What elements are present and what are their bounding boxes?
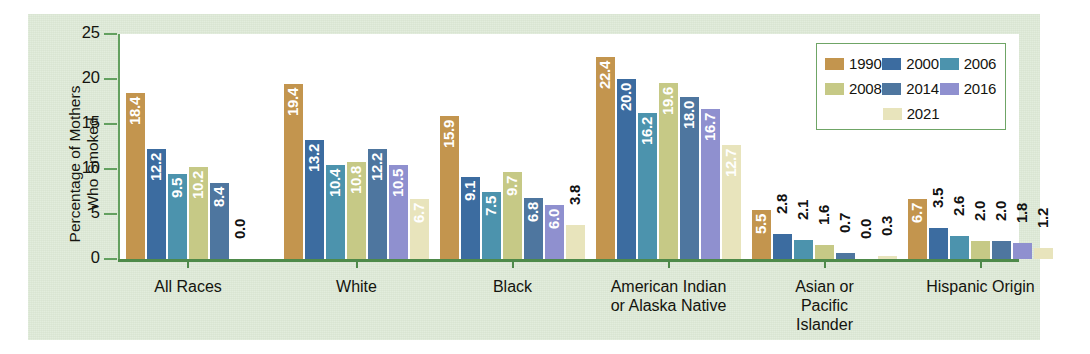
bar-american-indian-or-alaska-native-2008[interactable]: 19.6 — [659, 34, 678, 259]
x-axis-line — [118, 259, 1019, 262]
bar-white-2021[interactable]: 6.7 — [410, 34, 429, 259]
bar-white-2008[interactable]: 10.8 — [347, 34, 366, 259]
category-label-line-1: Hispanic Origin — [891, 277, 1071, 296]
bar-black-2021[interactable]: 3.8 — [566, 34, 585, 259]
bar-value-label: 9.7 — [503, 176, 522, 196]
y-tick-15 — [104, 123, 117, 125]
bar-black-2014[interactable]: 6.8 — [524, 34, 543, 259]
legend-swatch-2014 — [882, 83, 901, 95]
legend-item-2021[interactable]: 2021 — [883, 105, 940, 122]
bar-rect — [1013, 243, 1032, 259]
bar-value-label: 2.0 — [971, 201, 990, 221]
bar-all-races-2008[interactable]: 10.2 — [189, 34, 208, 259]
y-tick-label-25: 25 — [62, 23, 100, 42]
bar-american-indian-or-alaska-native-2006[interactable]: 16.2 — [638, 34, 657, 259]
bar-hispanic-origin-2021[interactable]: 1.2 — [1034, 34, 1053, 259]
y-tick-25 — [104, 33, 117, 35]
bar-all-races-1990[interactable]: 18.4 — [126, 34, 145, 259]
legend-row-2: 2008 2014 2016 — [825, 76, 997, 101]
legend-label-2021: 2021 — [907, 105, 940, 122]
bar-american-indian-or-alaska-native-2000[interactable]: 20.0 — [617, 34, 636, 259]
bar-value-label: 20.0 — [617, 83, 636, 111]
category-label-line-1: Black — [423, 277, 603, 296]
bar-american-indian-or-alaska-native-2014[interactable]: 18.0 — [680, 34, 699, 259]
bar-rect — [929, 228, 948, 260]
category-label-line-1: White — [267, 277, 447, 296]
bar-value-label: 9.1 — [461, 181, 480, 201]
legend-item-2016[interactable]: 2016 — [940, 80, 997, 97]
legend-label-2014: 2014 — [906, 80, 939, 97]
bar-value-label: 12.2 — [368, 153, 387, 181]
bar-all-races-2006[interactable]: 9.5 — [168, 34, 187, 259]
bar-all-races-2014[interactable]: 8.4 — [210, 34, 229, 259]
bar-rect — [794, 240, 813, 259]
x-tick-asian-or-pacific-islander — [824, 259, 826, 268]
bar-black-1990[interactable]: 15.9 — [440, 34, 459, 259]
bar-value-label: 2.8 — [773, 194, 792, 214]
bar-value-label: 1.2 — [1034, 208, 1053, 228]
bar-white-2014[interactable]: 12.2 — [368, 34, 387, 259]
bar-white-2006[interactable]: 10.4 — [326, 34, 345, 259]
bar-value-label: 12.2 — [147, 153, 166, 181]
bar-value-label: 3.5 — [929, 188, 948, 208]
bar-rect — [566, 225, 585, 259]
category-label-line-1: American Indian — [579, 277, 759, 296]
bar-black-2000[interactable]: 9.1 — [461, 34, 480, 259]
bar-rect — [950, 236, 969, 259]
y-tick-label-15: 15 — [62, 113, 100, 132]
legend-swatch-1990 — [825, 58, 844, 70]
bar-american-indian-or-alaska-native-2021[interactable]: 12.7 — [722, 34, 741, 259]
bar-value-label: 10.2 — [189, 171, 208, 199]
bar-asian-or-pacific-islander-2000[interactable]: 2.8 — [773, 34, 792, 259]
bar-american-indian-or-alaska-native-2016[interactable]: 16.7 — [701, 34, 720, 259]
bar-value-label: 16.7 — [701, 113, 720, 141]
bar-rect — [1034, 248, 1053, 259]
bar-all-races-2000[interactable]: 12.2 — [147, 34, 166, 259]
bar-value-label: 8.4 — [210, 187, 229, 207]
legend-swatch-2016 — [940, 83, 959, 95]
bar-value-label: 12.7 — [722, 149, 741, 177]
bar-asian-or-pacific-islander-1990[interactable]: 5.5 — [752, 34, 771, 259]
y-tick-0 — [104, 258, 117, 260]
bar-value-label: 6.7 — [908, 203, 927, 223]
category-label-black: Black — [423, 277, 603, 296]
x-tick-american-indian-or-alaska-native — [668, 259, 670, 268]
legend-item-1990[interactable]: 1990 — [825, 55, 882, 72]
bar-black-2016[interactable]: 6.0 — [545, 34, 564, 259]
bar-black-2006[interactable]: 7.5 — [482, 34, 501, 259]
bar-rect — [815, 245, 834, 259]
bar-value-label: 9.5 — [168, 178, 187, 198]
bar-white-2000[interactable]: 13.2 — [305, 34, 324, 259]
legend-item-2014[interactable]: 2014 — [882, 80, 939, 97]
x-tick-all-races — [187, 259, 189, 268]
category-label-line-2: Pacific — [735, 296, 915, 315]
bar-black-2008[interactable]: 9.7 — [503, 34, 522, 259]
bar-white-2016[interactable]: 10.5 — [389, 34, 408, 259]
legend-swatch-2021 — [883, 108, 902, 120]
bar-rect — [878, 256, 897, 259]
legend-item-2008[interactable]: 2008 — [825, 80, 882, 97]
bar-value-label: 0.0 — [231, 219, 250, 239]
bar-hispanic-origin-2016[interactable]: 1.8 — [1013, 34, 1032, 259]
y-tick-label-20: 20 — [62, 68, 100, 87]
y-tick-20 — [104, 78, 117, 80]
x-tick-hispanic-origin — [980, 259, 982, 268]
bar-value-label: 1.6 — [815, 205, 834, 225]
bar-value-label: 0.3 — [878, 216, 897, 236]
y-tick-label-5: 5 — [62, 203, 100, 222]
legend-label-2008: 2008 — [849, 80, 882, 97]
bar-white-1990[interactable]: 19.4 — [284, 34, 303, 259]
bar-value-label: 22.4 — [596, 61, 615, 89]
bar-all-races-2016[interactable]: 0.0 — [231, 34, 250, 259]
bar-value-label: 2.0 — [992, 201, 1011, 221]
bar-value-label: 10.4 — [326, 169, 345, 197]
bar-american-indian-or-alaska-native-1990[interactable]: 22.4 — [596, 34, 615, 259]
bar-value-label: 18.0 — [680, 101, 699, 129]
bar-value-label: 2.6 — [950, 196, 969, 216]
legend-item-2006[interactable]: 2006 — [940, 55, 997, 72]
legend-swatch-2006 — [940, 58, 959, 70]
legend: 1990 2000 2006 2008 2014 2016 — [816, 43, 1006, 130]
legend-item-2000[interactable]: 2000 — [882, 55, 939, 72]
bar-rect — [992, 241, 1011, 259]
bar-asian-or-pacific-islander-2006[interactable]: 2.1 — [794, 34, 813, 259]
